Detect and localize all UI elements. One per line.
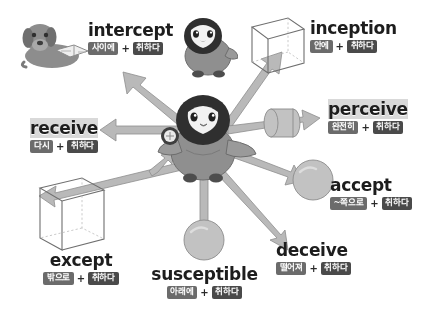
word-node-except[interactable]: except 밖으로 + 취하다 <box>26 252 136 285</box>
root-chip-deceive: 취하다 <box>321 262 351 275</box>
word-node-inception[interactable]: inception 안에 + 취하다 <box>310 20 397 53</box>
prefix-chip-susceptible: 아래에 <box>167 286 197 299</box>
prefix-chip-intercept: 사이에 <box>88 42 118 55</box>
morph-row-perceive: 완전히 + 취하다 <box>328 121 408 134</box>
prefix-chip-accept: ~쪽으로 <box>330 197 367 210</box>
root-chip-except: 취하다 <box>88 272 118 285</box>
morph-row-inception: 안에 + 취하다 <box>310 40 397 53</box>
plus-sign: + <box>361 122 369 133</box>
diagram-canvas: intercept 사이에 + 취하다 inception 안에 + 취하다 p… <box>0 0 424 322</box>
prefix-chip-except: 밖으로 <box>43 272 73 285</box>
root-chip-susceptible: 취하다 <box>212 286 242 299</box>
word-title-inception: inception <box>310 20 397 38</box>
root-chip-perceive: 취하다 <box>373 121 403 134</box>
word-title-accept: accept <box>330 177 412 195</box>
word-node-receive[interactable]: receive 다시 + 취하다 <box>14 120 114 153</box>
prefix-chip-receive: 다시 <box>30 140 53 153</box>
plus-sign: + <box>200 287 208 298</box>
morph-row-receive: 다시 + 취하다 <box>14 140 114 153</box>
word-node-deceive[interactable]: deceive 떨어져 + 취하다 <box>276 242 351 275</box>
root-chip-inception: 취하다 <box>347 40 377 53</box>
prefix-chip-deceive: 떨어져 <box>276 262 306 275</box>
plus-sign: + <box>77 273 85 284</box>
dog-reading-book-icon <box>18 12 90 72</box>
root-chip-intercept: 취하다 <box>133 42 163 55</box>
word-node-accept[interactable]: accept ~쪽으로 + 취하다 <box>330 177 412 210</box>
morph-row-deceive: 떨어져 + 취하다 <box>276 262 351 275</box>
penguin-character-icon <box>178 14 238 78</box>
word-node-intercept[interactable]: intercept 사이에 + 취하다 <box>88 22 173 55</box>
word-title-receive: receive <box>14 120 114 138</box>
morph-row-except: 밖으로 + 취하다 <box>26 272 136 285</box>
word-node-perceive[interactable]: perceive 완전히 + 취하다 <box>328 101 408 134</box>
plus-sign: + <box>370 198 378 209</box>
plus-sign: + <box>336 41 344 52</box>
morph-row-intercept: 사이에 + 취하다 <box>88 42 173 55</box>
plus-sign: + <box>121 43 129 54</box>
prefix-chip-perceive: 완전히 <box>328 121 358 134</box>
word-title-perceive: perceive <box>328 101 408 119</box>
word-title-intercept: intercept <box>88 22 173 40</box>
word-node-susceptible[interactable]: susceptible 아래에 + 취하다 <box>142 266 267 299</box>
root-chip-accept: 취하다 <box>382 197 412 210</box>
word-title-susceptible: susceptible <box>142 266 267 284</box>
word-title-except: except <box>26 252 136 270</box>
word-title-deceive: deceive <box>276 242 351 260</box>
plus-sign: + <box>309 263 317 274</box>
morph-row-susceptible: 아래에 + 취하다 <box>142 286 267 299</box>
prefix-chip-inception: 안에 <box>310 40 333 53</box>
morph-row-accept: ~쪽으로 + 취하다 <box>330 197 412 210</box>
plus-sign: + <box>56 141 64 152</box>
root-chip-receive: 취하다 <box>67 140 97 153</box>
